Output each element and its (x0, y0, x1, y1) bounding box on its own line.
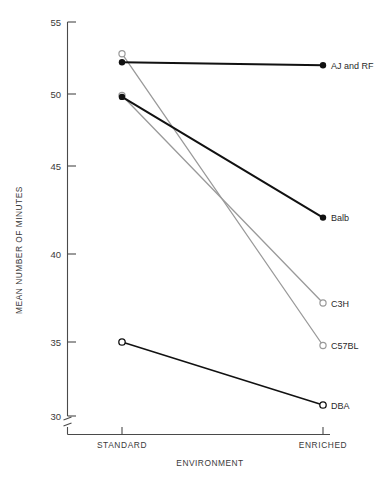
datapoint-balb-standard (119, 94, 125, 100)
y-axis-break-mark-lower (64, 423, 72, 426)
series-label-aj-and-rf: AJ and RF (331, 61, 374, 71)
y-tick-label-30: 30 (50, 411, 61, 422)
series-label-balb: Balb (331, 213, 349, 223)
y-tick-label-55: 55 (50, 17, 61, 28)
y-tick-label-50: 50 (50, 89, 61, 100)
datapoint-balb-enriched (320, 214, 326, 220)
datapoint-dba-enriched (320, 402, 326, 408)
series-line-aj-and-rf (122, 62, 323, 65)
y-tick-label-45: 45 (50, 161, 61, 172)
series-c3h: C3H (119, 92, 349, 308)
x-category-label-standard: STANDARD (97, 440, 147, 450)
series-aj-and-rf: AJ and RF (119, 59, 374, 70)
series-line-dba (122, 342, 323, 405)
y-tick-label-35: 35 (50, 337, 61, 348)
series-balb: Balb (119, 94, 349, 223)
y-axis-title: MEAN NUMBER OF MINUTES (14, 186, 24, 314)
line-chart: 55 50 45 40 35 30 STANDARD ENRICHED ENVI… (0, 0, 389, 477)
chart-canvas: 55 50 45 40 35 30 STANDARD ENRICHED ENVI… (0, 0, 389, 477)
x-category-label-enriched: ENRICHED (299, 440, 348, 450)
y-axis-break-mark-upper (64, 417, 72, 420)
datapoint-c3h-enriched (320, 300, 326, 306)
series-dba: DBA (119, 339, 350, 411)
series-label-c3h: C3H (331, 299, 349, 309)
datapoint-c57bl-standard (119, 51, 125, 57)
series-label-dba: DBA (331, 401, 350, 411)
x-axis-title: ENVIRONMENT (176, 458, 243, 468)
datapoint-dba-standard (119, 339, 125, 345)
series-label-c57bl: C57BL (331, 341, 359, 351)
datapoint-c57bl-enriched (320, 342, 326, 348)
y-tick-label-40: 40 (50, 249, 61, 260)
datapoint-aj-and-rf-standard (119, 59, 125, 65)
datapoint-aj-and-rf-enriched (320, 62, 326, 68)
